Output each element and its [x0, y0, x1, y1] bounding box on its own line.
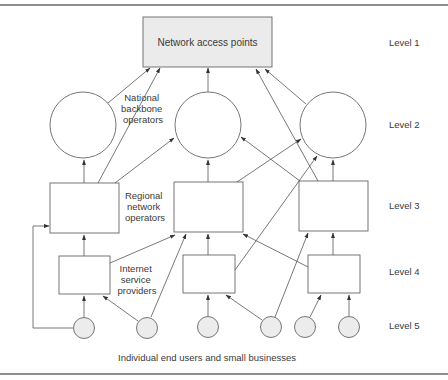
user-node-2 — [137, 318, 158, 339]
level-1-label: Level 1 — [389, 37, 420, 48]
network-access-points-node: Network access points — [143, 17, 272, 67]
level-5-label: Level 5 — [389, 320, 420, 331]
user-node-1 — [74, 318, 95, 339]
internet-hierarchy-diagram: Network access points — [0, 0, 448, 380]
backbone-node-2 — [175, 92, 241, 158]
user-node-3 — [198, 317, 219, 338]
level-2-label: Level 2 — [389, 119, 420, 130]
isp-node-1 — [59, 256, 110, 294]
isp-node-2 — [183, 255, 235, 293]
end-users-label: Individual end users and small businesse… — [118, 352, 296, 363]
user-node-6 — [339, 317, 360, 338]
regional-network-label: Regional network operators — [125, 190, 165, 223]
user-node-5 — [295, 317, 316, 338]
regional-node-1 — [50, 183, 119, 233]
level-4-label: Level 4 — [389, 266, 420, 277]
nap-label: Network access points — [157, 37, 257, 48]
isp-label: Internet service providers — [117, 263, 156, 296]
backbone-node-3 — [300, 92, 366, 158]
user-node-4 — [261, 317, 282, 338]
backbone-node-1 — [50, 92, 116, 158]
isp-node-3 — [308, 255, 360, 293]
regional-node-2 — [174, 182, 243, 232]
regional-node-3 — [299, 181, 368, 231]
level-3-label: Level 3 — [389, 200, 420, 211]
national-backbone-label: National backbone operators — [121, 92, 165, 125]
